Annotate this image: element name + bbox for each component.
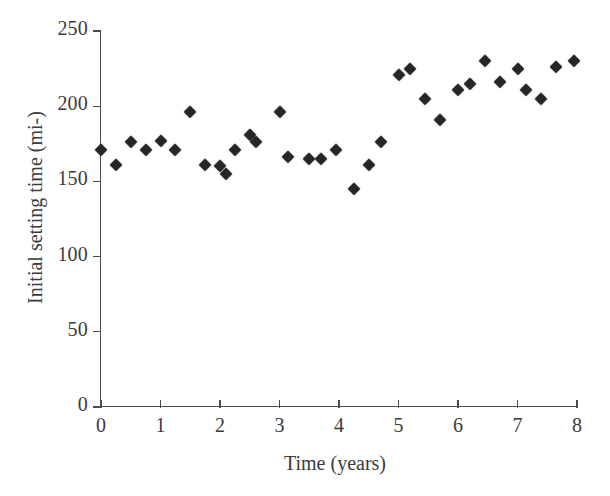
x-tick-label-2: 2 (200, 414, 240, 437)
plot-area (101, 31, 577, 407)
y-tick-100 (93, 256, 101, 257)
x-tick-6 (457, 400, 458, 408)
x-tick-label-7: 7 (498, 414, 538, 437)
x-tick-label-3: 3 (260, 414, 300, 437)
x-tick-4 (338, 400, 339, 408)
x-tick-2 (219, 400, 220, 408)
y-tick-250 (93, 30, 101, 31)
y-tick-200 (93, 106, 101, 107)
x-tick-1 (160, 400, 161, 408)
x-tick-3 (279, 400, 280, 408)
y-tick-label-0: 0 (18, 393, 88, 416)
x-tick-label-5: 5 (379, 414, 419, 437)
scatter-chart-figure: 050100150200250 012345678 Time (years) I… (0, 0, 610, 496)
x-tick-label-8: 8 (557, 414, 597, 437)
x-tick-7 (517, 400, 518, 408)
x-tick-8 (576, 400, 577, 408)
x-tick-0 (100, 400, 101, 408)
x-tick-label-4: 4 (319, 414, 359, 437)
y-tick-50 (93, 331, 101, 332)
x-axis-title: Time (years) (0, 452, 610, 475)
x-tick-label-0: 0 (81, 414, 121, 437)
y-axis-line (100, 31, 101, 408)
x-tick-label-6: 6 (438, 414, 478, 437)
x-tick-label-1: 1 (141, 414, 181, 437)
y-axis-title: Initial setting time (mi-) (24, 38, 47, 378)
x-tick-5 (398, 400, 399, 408)
y-tick-150 (93, 181, 101, 182)
